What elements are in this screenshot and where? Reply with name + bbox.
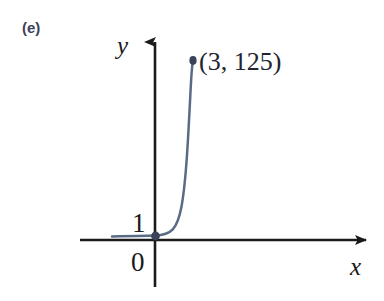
y-tick-label-1: 1 <box>132 208 146 238</box>
figure-container: (e) (3, 125) 1 0 y x <box>0 0 384 301</box>
point-marker-3-125 <box>189 56 196 65</box>
point-label-3-125: (3, 125) <box>199 47 281 76</box>
point-marker-y-intercept <box>151 232 160 241</box>
y-axis-label: y <box>114 32 129 59</box>
graph-plot: (3, 125) 1 0 y x <box>0 0 384 301</box>
exponential-curve <box>112 62 193 237</box>
origin-label: 0 <box>131 247 145 277</box>
x-axis-label: x <box>349 253 361 280</box>
